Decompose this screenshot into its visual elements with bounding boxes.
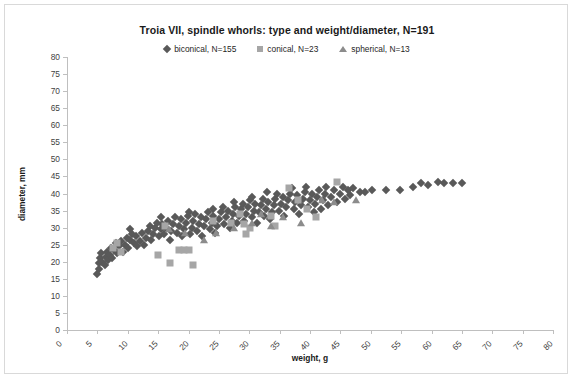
y-tick [63,91,67,92]
legend-label-conical: conical, N=23 [267,44,318,54]
y-tick [63,211,67,212]
y-tick [63,176,67,177]
legend-item-conical[interactable]: conical, N=23 [257,44,318,54]
data-point-square [294,197,301,204]
x-tick-label: 40 [298,339,312,353]
x-axis-title: weight, g [67,353,553,363]
data-point-square [167,260,174,267]
y-tick-label: 10 [51,291,60,301]
data-point-triangle [330,198,338,205]
data-point-square [237,210,244,217]
y-tick-label: 15 [51,274,60,284]
chart-frame: Troia VII, spindle whorls: type and weig… [4,4,568,374]
data-point-triangle [181,229,189,236]
data-point-triangle [165,225,173,232]
y-tick [63,279,67,280]
data-point-triangle [297,219,305,226]
data-point-diamond [458,179,466,187]
triangle-marker-icon [339,46,347,52]
y-tick [63,108,67,109]
data-point-square [190,262,197,269]
x-tick-label: 55 [389,339,403,353]
y-tick-label: 25 [51,240,60,250]
plot-area: 05101520253035404550556065707580 0510152… [67,57,553,330]
x-tick [97,330,98,334]
y-tick [63,125,67,126]
y-tick [63,313,67,314]
y-tick-label: 65 [51,103,60,113]
x-tick-label: 30 [237,339,251,353]
data-point-triangle [230,224,238,231]
x-tick-label: 25 [207,339,221,353]
data-point-diamond [263,188,271,196]
x-tick [432,330,433,334]
data-point-square [155,251,162,258]
y-tick-label: 30 [51,223,60,233]
x-tick [492,330,493,334]
x-tick-label: 45 [328,339,342,353]
x-tick [280,330,281,334]
x-tick [523,330,524,334]
x-tick-label: 5 [84,339,94,349]
diamond-marker-icon [163,45,171,53]
x-tick-label: 20 [177,339,191,353]
data-point-square [285,185,292,192]
x-tick-label: 10 [116,339,130,353]
data-point-triangle [279,214,287,221]
x-tick [189,330,190,334]
chart-title: Troia VII, spindle whorls: type and weig… [5,24,569,36]
y-tick [63,296,67,297]
x-tick [249,330,250,334]
y-tick-label: 40 [51,189,60,199]
data-point-square [243,231,250,238]
x-tick-label: 70 [480,339,494,353]
y-tick-label: 5 [55,308,60,318]
data-point-square [113,239,120,246]
y-tick [63,159,67,160]
y-tick-label: 20 [51,257,60,267]
x-tick-label: 15 [146,339,160,353]
x-tick-label: 75 [511,339,525,353]
data-point-triangle [267,222,275,229]
x-tick [553,330,554,334]
y-tick-label: 60 [51,120,60,130]
data-point-square [185,246,192,253]
y-tick-label: 75 [51,69,60,79]
y-tick [63,262,67,263]
y-tick-label: 70 [51,86,60,96]
data-point-triangle [248,219,256,226]
y-tick-label: 50 [51,154,60,164]
data-point-diamond [449,179,457,187]
data-point-diamond [424,181,432,189]
legend-item-biconical[interactable]: biconical, N=155 [164,44,236,54]
chart-legend: biconical, N=155 conical, N=23 spherical… [5,44,569,54]
y-tick-label: 35 [51,206,60,216]
data-point-diamond [165,235,173,243]
data-point-triangle [352,196,360,203]
legend-label-spherical: spherical, N=13 [351,44,409,54]
x-tick [128,330,129,334]
data-point-diamond [439,179,447,187]
data-point-diamond [382,186,390,194]
legend-item-spherical[interactable]: spherical, N=13 [339,44,409,54]
y-tick-label: 55 [51,137,60,147]
y-tick [63,194,67,195]
x-tick-label: 60 [420,339,434,353]
x-tick [340,330,341,334]
data-point-diamond [396,186,404,194]
y-tick [63,245,67,246]
data-point-square [118,248,125,255]
data-point-square [334,178,341,185]
y-tick [63,142,67,143]
x-tick [371,330,372,334]
data-point-square [303,205,310,212]
data-point-triangle [257,210,265,217]
x-tick [158,330,159,334]
y-tick-label: 45 [51,171,60,181]
y-tick-label: 80 [51,52,60,62]
data-point-diamond [295,210,303,218]
y-tick [63,74,67,75]
data-point-square [267,212,274,219]
y-axis-line [67,57,68,330]
x-tick [67,330,68,334]
